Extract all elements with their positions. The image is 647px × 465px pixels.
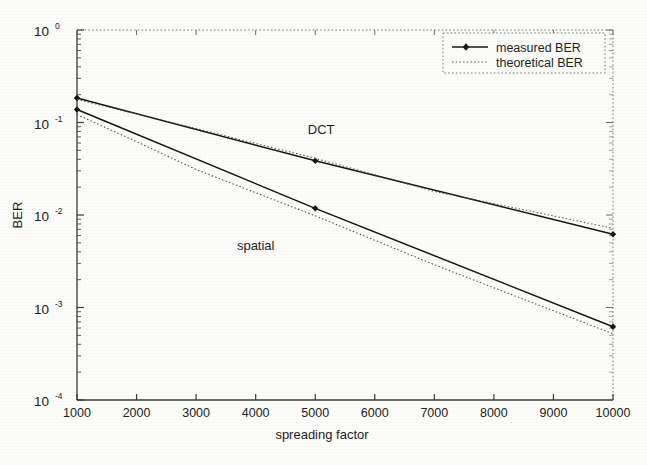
x-tick-label-7000: 7000 — [420, 406, 448, 420]
ber-vs-spreading-factor-chart: 10 0 10 -1 10 -2 10 -3 10 -4 10002000300… — [0, 0, 647, 465]
x-tick-label-9000: 9000 — [540, 406, 568, 420]
x-tick-label-4000: 4000 — [242, 406, 270, 420]
x-tick-label-8000: 8000 — [480, 406, 508, 420]
x-axis-title: spreading factor — [275, 427, 369, 442]
x-tick-label-10000: 10000 — [596, 406, 631, 420]
y-tick-label-1e-1-base: 10 — [34, 117, 49, 132]
y-tick-label-1e0-exp: 0 — [55, 21, 60, 31]
x-tick-label-1000: 1000 — [63, 406, 91, 420]
y-tick-label-1e-1-exp: -1 — [55, 114, 63, 124]
y-tick-label-1e0-base: 10 — [34, 24, 49, 39]
x-tick-label-5000: 5000 — [301, 406, 329, 420]
y-tick-label-1e-4-exp: -4 — [55, 391, 63, 401]
x-tick-label-2000: 2000 — [123, 406, 151, 420]
y-tick-label-1e-2-exp: -2 — [55, 206, 63, 216]
y-tick-label-1e-3-base: 10 — [34, 302, 49, 317]
annotation-spatial: spatial — [237, 238, 275, 253]
annotation-dct: DCT — [308, 122, 335, 137]
x-tick-label-6000: 6000 — [361, 406, 389, 420]
y-tick-label-1e-4-base: 10 — [34, 394, 49, 409]
y-tick-label-1e-2-base: 10 — [34, 209, 49, 224]
x-tick-label-3000: 3000 — [182, 406, 210, 420]
chart-legend: measured BER theoretical BER — [443, 33, 605, 73]
y-axis-title: BER — [10, 202, 25, 229]
legend-label-measured-ber: measured BER — [496, 41, 581, 55]
y-tick-label-1e-3-exp: -3 — [55, 299, 63, 309]
figure-page: 10 0 10 -1 10 -2 10 -3 10 -4 10002000300… — [0, 0, 647, 465]
legend-label-theoretical-ber: theoretical BER — [496, 56, 583, 70]
